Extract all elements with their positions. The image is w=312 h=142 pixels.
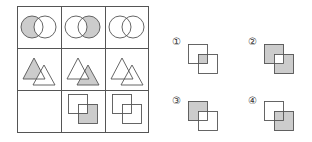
puzzle-figure [0, 0, 312, 142]
cell-r2c3-triangles [111, 58, 143, 85]
cell-r3c2-squares [69, 95, 98, 124]
option-2-label: ② [248, 37, 257, 47]
cell-r2c1-triangles [23, 58, 55, 85]
option-3-label: ③ [172, 96, 181, 106]
option-1-figure[interactable] [189, 45, 218, 74]
cell-r1c3-circles [109, 16, 144, 38]
option-2-figure[interactable] [264, 44, 294, 74]
option-4-label: ④ [248, 96, 257, 106]
option-3-figure[interactable] [188, 101, 218, 131]
cell-r1c1-circles [21, 16, 56, 38]
cell-r1c2-circles [65, 16, 100, 38]
cell-r3c3-squares [113, 95, 142, 124]
option-4-figure[interactable] [265, 102, 295, 132]
option-1-label: ① [172, 37, 181, 47]
cell-r2c2-triangles [67, 58, 99, 85]
